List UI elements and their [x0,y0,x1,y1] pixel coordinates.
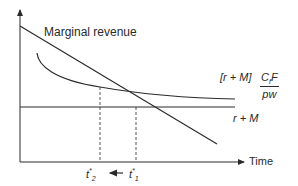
cost-curve-numerator: CfF [260,71,279,87]
t1-sup: * [132,167,135,174]
cost-curve [37,53,235,99]
t2-sub: 2 [92,175,96,182]
marginal-revenue-label: Marginal revenue [44,26,137,38]
x-axis-label: Time [249,156,273,167]
t1-sub: 1 [135,175,139,182]
t-star-2-label: t*2 [86,167,96,182]
r-plus-m-label: r + M [233,113,258,124]
cost-curve-label-fraction: CfF pw [260,71,279,100]
t2-sup: * [89,167,92,174]
marginal-revenue-line [20,26,217,144]
cost-curve-denominator: pw [260,87,279,100]
t-star-1-label: t*1 [129,167,139,182]
cost-curve-label-prefix: [r + M] [220,72,251,83]
numerator-f: F [271,71,278,83]
numerator-c: C [261,71,269,83]
